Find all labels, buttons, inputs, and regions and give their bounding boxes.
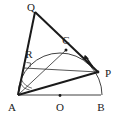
label-A: A bbox=[8, 101, 16, 113]
geometry-figure: Q R C P A O B bbox=[0, 0, 117, 115]
label-C: C bbox=[62, 34, 69, 46]
label-O: O bbox=[56, 101, 64, 113]
label-B: B bbox=[97, 101, 104, 113]
arc-direction-arrowhead bbox=[83, 55, 88, 59]
right-angle-mark-at-R bbox=[27, 63, 31, 68]
label-R: R bbox=[25, 48, 33, 60]
label-P: P bbox=[105, 67, 111, 79]
point-C-dot bbox=[65, 49, 68, 52]
point-P-dot bbox=[97, 71, 100, 74]
segment-R-P bbox=[24, 68, 98, 72]
point-O-dot bbox=[59, 94, 62, 97]
label-Q: Q bbox=[27, 1, 35, 13]
